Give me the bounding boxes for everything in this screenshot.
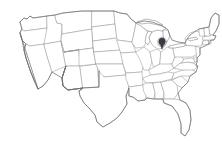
us-states-map	[0, 0, 222, 145]
state-new-mexico[interactable]	[80, 64, 99, 88]
state-new-jersey[interactable]	[196, 46, 200, 58]
state-arkansas[interactable]	[126, 72, 143, 87]
marker-dot[interactable]	[159, 38, 165, 45]
us-map-container: United States Outline Map Contiguous Uni…	[0, 0, 222, 145]
state-oregon[interactable]	[20, 28, 47, 46]
state-maine[interactable]	[209, 13, 219, 35]
state-minnesota[interactable]	[114, 11, 136, 42]
state-kansas[interactable]	[94, 50, 123, 64]
state-maryland[interactable]	[182, 58, 196, 63]
